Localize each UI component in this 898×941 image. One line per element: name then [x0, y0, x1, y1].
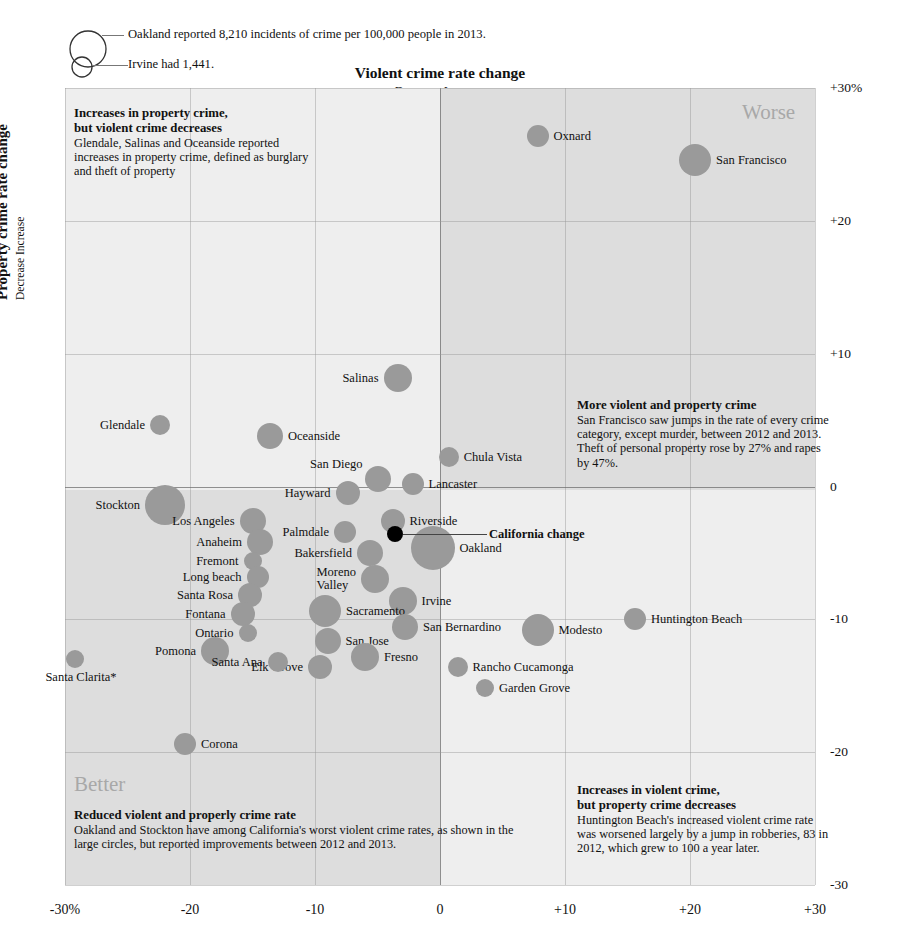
bubble-salinas[interactable] — [384, 364, 412, 392]
gridline-x-30 — [815, 88, 816, 885]
annotation-bottom-left: Reduced violent and properly crime rate … — [74, 808, 536, 851]
y-tick-label: +20 — [830, 213, 851, 229]
gridline-y-10 — [65, 354, 815, 355]
corner-label-worse: Worse — [742, 100, 795, 125]
label-huntington-beach: Huntington Beach — [651, 613, 742, 626]
label-rancho-cucamonga: Rancho Cucamonga — [473, 661, 574, 674]
label-stockton: Stockton — [96, 499, 140, 512]
label-santa-rosa: Santa Rosa — [177, 589, 233, 602]
y-tick-label: -20 — [830, 744, 848, 760]
label-bakersfield: Bakersfield — [294, 546, 352, 559]
annotation-bottom-right-heading-1: Increases in violent crime, — [577, 783, 835, 798]
annotation-mid-right-heading: More violent and property crime — [577, 398, 835, 413]
label-fresno: Fresno — [384, 650, 418, 663]
gridline-y-20 — [65, 221, 815, 222]
annotation-bottom-left-body: Oakland and Stockton have among Californ… — [74, 823, 513, 851]
label-california-change: California change — [489, 528, 584, 541]
legend-text-irvine: Irvine had 1,441. — [128, 57, 214, 72]
label-fontana: Fontana — [185, 608, 225, 621]
label-san-bernardino: San Bernardino — [423, 621, 501, 634]
x-tick-label: 0 — [437, 902, 444, 918]
label-salinas: Salinas — [342, 371, 378, 384]
legend-leader-2 — [92, 65, 128, 66]
y-axis-title-group: Property crime rate change Decrease Incr… — [0, 60, 34, 300]
annotation-top-left-heading-2: but violent crime decreases — [74, 121, 324, 136]
label-san-francisco: San Francisco — [716, 153, 786, 166]
label-santa-clarita: Santa Clarita* — [45, 671, 116, 684]
y-tick-label: +10 — [830, 346, 851, 362]
y-tick-label: +30% — [830, 80, 862, 96]
label-chula-vista: Chula Vista — [464, 451, 522, 464]
bubble-san-jose[interactable] — [315, 628, 341, 654]
corner-label-better: Better — [74, 772, 125, 797]
bubble-fontana[interactable] — [231, 602, 255, 626]
bubble-oceanside[interactable] — [257, 423, 283, 449]
annotation-mid-right: More violent and property crime San Fran… — [577, 398, 835, 470]
annotation-bottom-right-body: Huntington Beach's increased violent cri… — [577, 813, 828, 855]
label-oxnard: Oxnard — [554, 129, 592, 142]
scatter-plot-area: OxnardSan FranciscoSalinasGlendaleOceans… — [65, 88, 815, 885]
x-axis-title: Violent crime rate change — [355, 64, 525, 82]
y-tick-label: -30 — [830, 877, 848, 893]
label-santa-ana: Santa Ana — [211, 655, 262, 668]
label-pomona: Pomona — [155, 645, 196, 658]
annotation-top-left-heading-1: Increases in property crime, — [74, 106, 324, 121]
bubble-ontario[interactable] — [239, 624, 257, 642]
bubble-lancaster[interactable] — [402, 473, 424, 495]
bubble-chula-vista[interactable] — [439, 447, 459, 467]
bubble-modesto[interactable] — [522, 614, 554, 646]
label-anaheim: Anaheim — [196, 536, 242, 549]
label-garden-grove: Garden Grove — [499, 682, 570, 695]
label-long-beach: Long beach — [183, 570, 242, 583]
y-axis-title: Property crime rate change — [0, 124, 11, 300]
label-san-diego: San Diego — [310, 457, 362, 470]
label-lancaster: Lancaster — [429, 477, 478, 490]
bubble-rancho-cucamonga[interactable] — [448, 657, 468, 677]
y-axis-subtitle: Decrease Increase — [14, 217, 26, 300]
bubble-oakland[interactable] — [411, 526, 455, 570]
x-tick-label: +30 — [804, 902, 826, 918]
x-tick-label: +20 — [679, 902, 701, 918]
chart-page: Oakland reported 8,210 incidents of crim… — [0, 0, 898, 941]
label-moreno-valley: Moreno Valley — [316, 566, 356, 592]
bubble-palmdale[interactable] — [334, 521, 356, 543]
x-tick-label: -30% — [50, 902, 80, 918]
label-hayward: Hayward — [285, 487, 331, 500]
label-irvine: Irvine — [422, 594, 452, 607]
bubble-oxnard[interactable] — [527, 125, 549, 147]
annotation-top-left-body: Glendale, Salinas and Oceanside reported… — [74, 136, 308, 178]
x-tick-label: +10 — [554, 902, 576, 918]
legend-text-oakland: Oakland reported 8,210 incidents of crim… — [128, 27, 486, 42]
label-oakland: Oakland — [460, 541, 502, 554]
label-oceanside: Oceanside — [288, 430, 340, 443]
legend-leader-1 — [102, 35, 124, 36]
bubble-santa-ana[interactable] — [268, 652, 288, 672]
label-fremont: Fremont — [196, 554, 238, 567]
annotation-bottom-right-heading-2: but property crime decreases — [577, 798, 835, 813]
x-tick-label: -20 — [181, 902, 200, 918]
annotation-bottom-left-heading: Reduced violent and properly crime rate — [74, 808, 536, 823]
y-tick-label: -10 — [830, 611, 848, 627]
callout-leader-line — [403, 534, 487, 535]
y-tick-label: 0 — [830, 479, 837, 495]
bubble-bakersfield[interactable] — [357, 540, 383, 566]
gridline-y--30 — [65, 885, 815, 886]
bubble-san-francisco[interactable] — [679, 144, 711, 176]
annotation-top-left: Increases in property crime, but violent… — [74, 106, 324, 179]
bubble-san-diego[interactable] — [365, 466, 391, 492]
bubble-elk-grove[interactable] — [308, 655, 332, 679]
gridline-y-30 — [65, 88, 815, 89]
x-tick-label: -10 — [306, 902, 325, 918]
bubble-fresno[interactable] — [351, 643, 379, 671]
label-corona: Corona — [201, 738, 238, 751]
annotation-bottom-right: Increases in violent crime, but property… — [577, 783, 835, 856]
legend-circles-icon — [62, 25, 120, 83]
label-modesto: Modesto — [559, 623, 603, 636]
label-palmdale: Palmdale — [282, 525, 329, 538]
label-los-angeles: Los Angeles — [172, 515, 234, 528]
annotation-mid-right-body: San Francisco saw jumps in the rate of e… — [577, 413, 829, 470]
label-glendale: Glendale — [100, 419, 145, 432]
bubble-hayward[interactable] — [336, 481, 360, 505]
